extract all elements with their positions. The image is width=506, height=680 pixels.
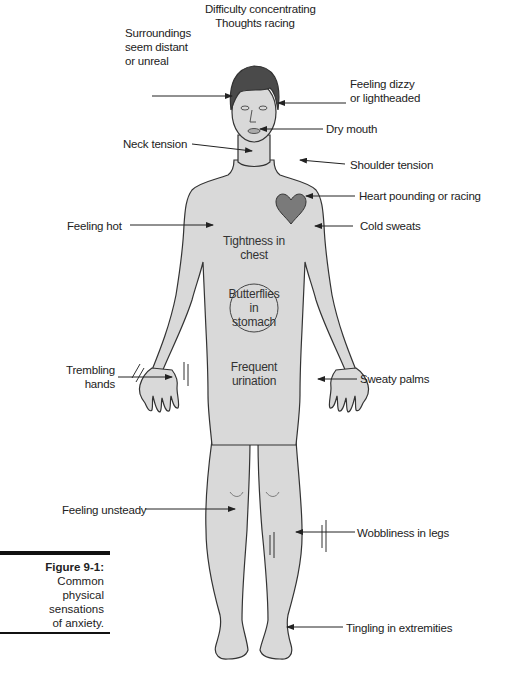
label-feeling-unsteady: Feeling unsteady bbox=[62, 503, 146, 517]
caption-line: sensations bbox=[0, 602, 104, 616]
label-line: in bbox=[224, 301, 284, 315]
left-leg bbox=[206, 440, 250, 659]
figure-number: Figure 9-1: bbox=[0, 560, 104, 574]
label-line: or lightheaded bbox=[350, 91, 420, 105]
label-line: Tightness in bbox=[214, 234, 294, 248]
label-line: seem distant bbox=[125, 40, 191, 54]
label-stomach: Butterflies in stomach bbox=[224, 287, 284, 329]
caption-line: of anxiety. bbox=[0, 616, 104, 630]
label-heart: Heart pounding or racing bbox=[359, 189, 481, 203]
label-line: Feeling dizzy bbox=[350, 77, 420, 91]
label-line: chest bbox=[214, 248, 294, 262]
label-sweaty-palms: Sweaty palms bbox=[360, 372, 429, 386]
caption-top-bar bbox=[0, 551, 110, 555]
label-dizzy: Feeling dizzy or lightheaded bbox=[350, 77, 420, 105]
label-line: Butterflies bbox=[224, 287, 284, 301]
label-thoughts-racing: Thoughts racing bbox=[205, 16, 305, 30]
label-wobbly-legs: Wobbliness in legs bbox=[357, 526, 449, 540]
label-difficulty-concentrating: Difficulty concentrating bbox=[205, 2, 305, 16]
label-urination: Frequent urination bbox=[219, 360, 289, 388]
label-chest: Tightness in chest bbox=[214, 234, 294, 262]
label-line: Surroundings bbox=[125, 26, 191, 40]
label-line: stomach bbox=[224, 315, 284, 329]
caption-line: Common bbox=[0, 574, 104, 588]
left-hand bbox=[139, 368, 178, 412]
label-cold-sweats: Cold sweats bbox=[360, 219, 420, 233]
label-surroundings: Surroundings seem distant or unreal bbox=[125, 26, 191, 68]
label-feeling-hot: Feeling hot bbox=[67, 219, 122, 233]
label-neck-tension: Neck tension bbox=[123, 137, 187, 151]
figure-caption: Figure 9-1: Common physical sensations o… bbox=[0, 560, 104, 630]
label-line: or unreal bbox=[125, 54, 191, 68]
label-line: Trembling bbox=[60, 363, 115, 377]
label-line: Frequent bbox=[219, 360, 289, 374]
label-head-top: Difficulty concentrating Thoughts racing bbox=[205, 2, 305, 30]
label-line: hands bbox=[60, 377, 115, 391]
caption-line: physical bbox=[0, 588, 104, 602]
right-leg bbox=[258, 440, 302, 659]
label-shoulder-tension: Shoulder tension bbox=[350, 158, 433, 172]
caption-bottom-bar bbox=[0, 632, 110, 634]
label-trembling-hands: Trembling hands bbox=[60, 363, 115, 391]
label-line: urination bbox=[219, 374, 289, 388]
label-dry-mouth: Dry mouth bbox=[326, 122, 377, 136]
label-tingling: Tingling in extremities bbox=[346, 621, 452, 635]
